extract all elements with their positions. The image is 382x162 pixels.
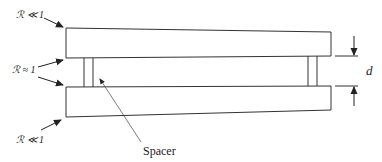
gap-dimension	[335, 36, 358, 106]
bottom-plate	[66, 86, 331, 117]
ratio-label-top: ℛ ≪ 1	[16, 9, 44, 20]
gap-label: d	[366, 63, 373, 79]
right-spacer	[308, 56, 317, 86]
ratio-arrow-middle-upper	[38, 60, 63, 67]
ratio-arrow-bottom	[41, 120, 61, 130]
ratio-label-bottom: ℛ ≪ 1	[16, 134, 44, 145]
ratio-arrow-middle-lower	[38, 77, 63, 85]
ratio-label-middle: ℛ ≈ 1	[12, 64, 36, 75]
diagram-graphics	[0, 0, 382, 162]
left-spacer	[84, 58, 93, 87]
spacer-label: Spacer	[143, 144, 176, 159]
top-plate	[66, 28, 331, 58]
parallel-plate-diagram: ℛ ≪ 1 ℛ ≈ 1 ℛ ≪ 1 d Spacer	[0, 0, 382, 162]
ratio-arrow-top	[44, 18, 63, 27]
